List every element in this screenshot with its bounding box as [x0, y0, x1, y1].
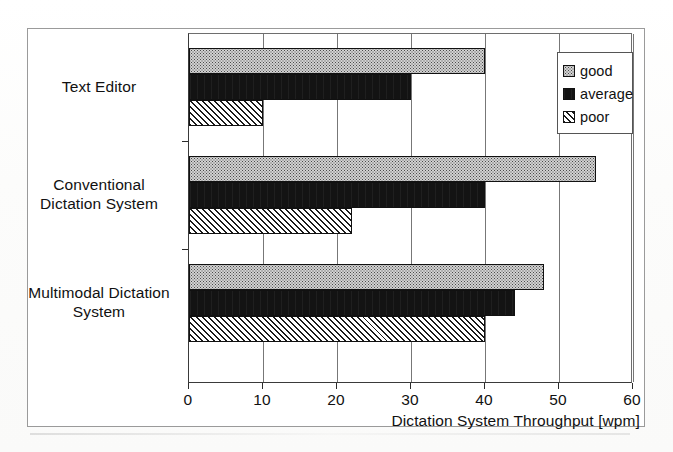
category-label-2: ConventionalDictation System [18, 175, 180, 213]
bar-good-1 [189, 48, 485, 74]
x-tick-label-40: 40 [464, 391, 504, 409]
bar-poor-1 [189, 100, 263, 126]
category-label-1: Text Editor [18, 77, 180, 96]
chart-legend: good average poor [557, 52, 633, 134]
legend-item-good: good [563, 59, 632, 82]
x-tick-label-20: 20 [316, 391, 356, 409]
legend-label-poor: poor [580, 109, 609, 125]
scan-artifact [30, 433, 630, 435]
category-label-3: Multimodal DictationSystem [18, 283, 180, 321]
x-tick-30 [410, 383, 411, 389]
legend-item-average: average [563, 82, 632, 105]
y-tick-1 [182, 141, 188, 142]
x-axis-title: Dictation System Throughput [wpm] [210, 412, 640, 430]
bar-average-2 [189, 182, 485, 208]
chart-figure: 0102030405060 Text EditorConventionalDic… [0, 0, 673, 452]
legend-label-average: average [580, 86, 633, 102]
category-label-line: Dictation System [18, 194, 180, 213]
bar-poor-2 [189, 208, 352, 234]
bar-good-2 [189, 156, 596, 182]
x-tick-40 [484, 383, 485, 389]
x-tick-60 [632, 383, 633, 389]
y-tick-2 [182, 249, 188, 250]
category-label-line: Text Editor [18, 77, 180, 96]
legend-swatch-good-icon [563, 65, 575, 77]
gridline-40 [485, 34, 486, 382]
category-label-line: Multimodal Dictation [18, 283, 180, 302]
x-tick-10 [262, 383, 263, 389]
bar-good-3 [189, 264, 544, 290]
x-tick-20 [336, 383, 337, 389]
category-label-line: Conventional [18, 175, 180, 194]
x-tick-label-30: 30 [390, 391, 430, 409]
legend-swatch-average-icon [563, 88, 575, 100]
x-tick-50 [558, 383, 559, 389]
x-tick-label-50: 50 [538, 391, 578, 409]
gridline-60 [633, 34, 634, 382]
category-label-line: System [18, 302, 180, 321]
legend-label-good: good [580, 63, 613, 79]
x-tick-label-0: 0 [168, 391, 208, 409]
bar-average-3 [189, 290, 515, 316]
legend-item-poor: poor [563, 105, 632, 128]
legend-swatch-poor-icon [563, 111, 575, 123]
x-tick-label-10: 10 [242, 391, 282, 409]
x-tick-label-60: 60 [612, 391, 652, 409]
x-tick-0 [188, 383, 189, 389]
bar-average-1 [189, 74, 411, 100]
bar-poor-3 [189, 316, 485, 342]
